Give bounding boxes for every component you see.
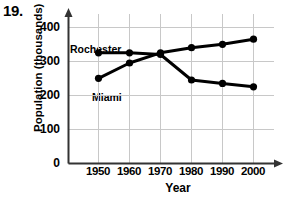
series-rochester (95, 49, 257, 90)
x-axis-line (69, 160, 284, 168)
series-miami (95, 36, 257, 82)
chart-figure: 19. Population (thousands) Year 0 100 20… (0, 0, 294, 202)
grid-vertical (99, 14, 254, 163)
y-axis-line (65, 8, 73, 164)
plot-area (0, 0, 294, 202)
